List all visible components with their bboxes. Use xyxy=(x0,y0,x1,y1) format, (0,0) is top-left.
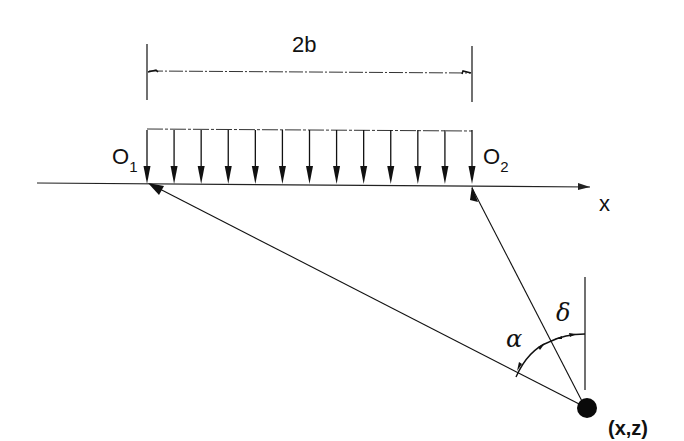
diagram-canvas xyxy=(0,0,684,441)
load-arrowhead xyxy=(252,166,259,184)
load-arrowhead xyxy=(279,166,286,184)
angle-label-alpha: α xyxy=(506,327,522,351)
load-arrowhead xyxy=(198,166,205,184)
load-arrowhead xyxy=(306,166,313,184)
angle-arc-delta xyxy=(549,333,585,342)
origin-label-o2-main: O xyxy=(483,144,500,169)
origin-label-o2-sub: 2 xyxy=(500,158,508,175)
dimension-label: 2b xyxy=(292,34,316,56)
point-marker xyxy=(577,398,597,418)
load-arrowhead xyxy=(387,166,394,184)
load-arrowhead xyxy=(171,166,178,184)
origin-label-o1-sub: 1 xyxy=(129,158,137,175)
angle-label-delta: δ xyxy=(556,301,570,325)
load-arrowhead xyxy=(414,166,421,184)
ray-o1-to-point xyxy=(148,183,585,407)
x-axis xyxy=(37,183,590,190)
point-label: (x,z) xyxy=(608,418,648,438)
load-arrowhead xyxy=(469,166,476,184)
origin-label-o1: O1 xyxy=(112,146,137,168)
origin-label-o2: O2 xyxy=(483,146,508,168)
load-arrowhead xyxy=(333,166,340,184)
ray-o2-to-point xyxy=(470,186,585,407)
load-arrowhead xyxy=(441,166,448,184)
load-arrows xyxy=(144,130,476,184)
origin-label-o1-main: O xyxy=(112,144,129,169)
axis-label-x: x xyxy=(599,193,610,215)
load-arrowhead xyxy=(225,166,232,184)
distributed-load xyxy=(144,129,476,184)
load-arrowhead xyxy=(360,166,367,184)
load-arrowhead xyxy=(144,166,151,184)
